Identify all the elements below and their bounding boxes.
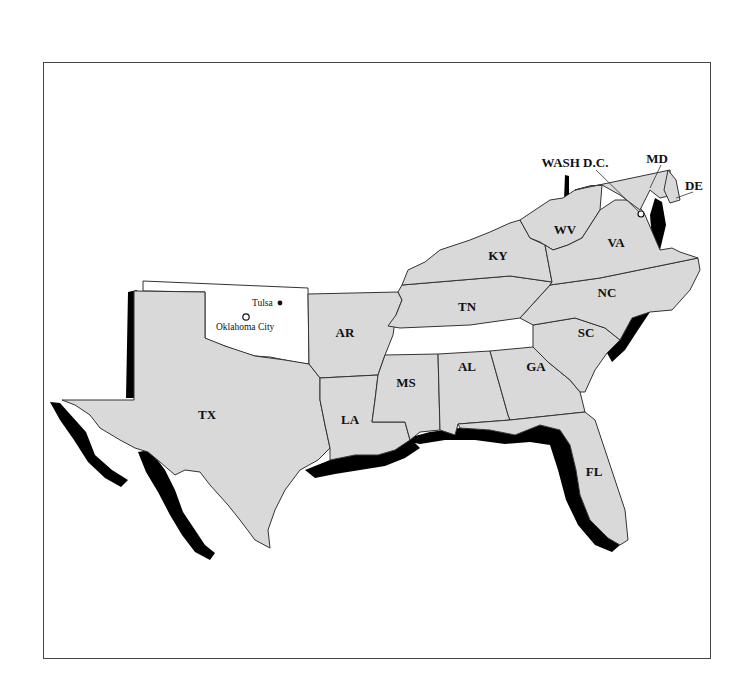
oklahoma-city-star-icon	[243, 314, 249, 320]
label-tx: TX	[198, 407, 217, 422]
label-sc: SC	[578, 325, 595, 340]
label-wash-dc: WASH D.C.	[542, 155, 609, 170]
city-oklahoma-city-label: Oklahoma City	[216, 322, 275, 332]
tulsa-dot-icon	[278, 301, 283, 306]
city-tulsa-label: Tulsa	[252, 298, 274, 308]
label-md: MD	[646, 151, 668, 166]
label-ar: AR	[336, 325, 355, 340]
label-ky: KY	[488, 248, 508, 263]
dc-marker-icon	[638, 211, 644, 217]
label-wv: WV	[554, 222, 577, 237]
label-va: VA	[607, 235, 625, 250]
label-al: AL	[458, 359, 476, 374]
label-nc: NC	[598, 285, 617, 300]
label-fl: FL	[586, 464, 603, 479]
label-tn: TN	[458, 299, 477, 314]
label-ms: MS	[396, 375, 416, 390]
label-ga: GA	[526, 359, 546, 374]
label-la: LA	[341, 412, 360, 427]
southeast-us-map: TX LA AR MS AL GA FL SC NC TN KY WV VA W…	[0, 0, 738, 693]
label-de: DE	[685, 178, 703, 193]
